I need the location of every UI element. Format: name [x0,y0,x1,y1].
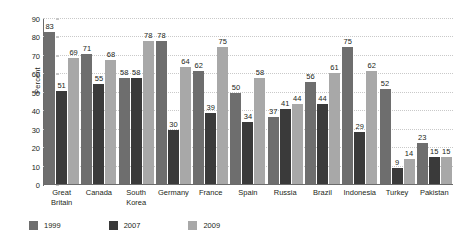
bar-wrapper: 62 [193,19,204,185]
x-category-label: Brazil [304,188,341,207]
bar-wrapper: 34 [242,19,253,185]
bar-wrapper: 78 [156,19,167,185]
x-category-label: Canada [80,188,117,207]
bar[interactable] [392,168,403,185]
bar[interactable] [254,78,265,185]
bar-group: 231515 [416,19,453,185]
bar[interactable] [380,89,391,185]
x-category-label: Germany [155,188,192,207]
bar-value-label: 37 [269,108,277,116]
bar-value-label: 41 [281,100,289,108]
bar-wrapper: 58 [254,19,265,185]
bar-value-label: 51 [57,82,65,90]
bar-value-label: 15 [442,148,450,156]
bar-value-label: 69 [69,49,77,57]
bar-group: 503458 [229,19,266,185]
x-category-label: Turkey [378,188,415,207]
legend-item[interactable]: 1999 [29,221,61,230]
bar[interactable] [242,122,253,185]
bar-value-label: 14 [405,150,413,158]
bar-value-label: 58 [132,69,140,77]
bar[interactable] [217,47,228,185]
bar[interactable] [354,132,365,185]
bar-group: 835169 [43,19,80,185]
bar-group: 783064 [155,19,192,185]
bar[interactable] [366,71,377,185]
y-tick-label: 10 [16,162,40,171]
bar[interactable] [342,47,353,185]
bar[interactable] [193,71,204,185]
bar-wrapper: 15 [441,19,452,185]
bar-group: 52914 [378,19,415,185]
bar[interactable] [68,58,79,185]
x-category-label: SouthKorea [118,188,155,207]
bar-value-label: 44 [318,95,326,103]
bar-group: 374144 [267,19,304,185]
legend-label: 2009 [203,221,220,230]
bar[interactable] [119,78,130,185]
bar[interactable] [230,93,241,185]
x-category-label: GreatBritain [43,188,80,207]
legend-item[interactable]: 2007 [109,221,141,230]
bar-value-label: 52 [381,80,389,88]
bar-value-label: 62 [368,62,376,70]
bar-value-label: 44 [293,95,301,103]
bar[interactable] [268,117,279,185]
bar-wrapper: 58 [131,19,142,185]
bar[interactable] [329,73,340,186]
x-category-label: Indonesia [341,188,378,207]
legend-item[interactable]: 2009 [188,221,220,230]
bar-value-label: 34 [244,113,252,121]
bar-wrapper: 44 [292,19,303,185]
bar-value-label: 62 [195,62,203,70]
legend-swatch [188,221,197,230]
bar-wrapper: 41 [280,19,291,185]
bar-wrapper: 78 [143,19,154,185]
legend-swatch [29,221,38,230]
bar-value-label: 15 [430,148,438,156]
bar-wrapper: 52 [380,19,391,185]
bar[interactable] [180,67,191,185]
bar-wrapper: 37 [268,19,279,185]
bar-group: 752962 [341,19,378,185]
bar-value-label: 39 [207,104,215,112]
bar[interactable] [81,54,92,185]
y-tick-label: 30 [16,125,40,134]
bar[interactable] [280,109,291,185]
bar[interactable] [305,82,316,185]
bar-value-label: 75 [344,38,352,46]
bar[interactable] [56,91,67,185]
bar[interactable] [105,60,116,185]
bar-value-label: 68 [107,51,115,59]
bar[interactable] [131,78,142,185]
bar-wrapper: 39 [205,19,216,185]
bar[interactable] [317,104,328,185]
y-tick-label: 20 [16,144,40,153]
y-tick-label: 70 [16,51,40,60]
bar[interactable] [441,157,452,185]
bar[interactable] [417,143,428,185]
x-category-label: Russia [267,188,304,207]
bar-wrapper: 9 [392,19,403,185]
bar-wrapper: 68 [105,19,116,185]
bar[interactable] [143,41,154,185]
bar-value-label: 23 [418,134,426,142]
bar-group: 564461 [304,19,341,185]
bar-wrapper: 61 [329,19,340,185]
bar[interactable] [93,84,104,185]
bar-group: 585878 [118,19,155,185]
bar-wrapper: 75 [342,19,353,185]
bar[interactable] [44,32,55,185]
bar[interactable] [168,130,179,185]
bar[interactable] [205,113,216,185]
bar-value-label: 61 [330,64,338,72]
bar-group: 715568 [80,19,117,185]
bar[interactable] [429,157,440,185]
bar[interactable] [156,41,167,185]
bar[interactable] [292,104,303,185]
bar[interactable] [404,159,415,185]
bar-wrapper: 15 [429,19,440,185]
y-tick-label: 90 [16,15,40,24]
bar-value-label: 78 [157,32,165,40]
bar-wrapper: 23 [417,19,428,185]
